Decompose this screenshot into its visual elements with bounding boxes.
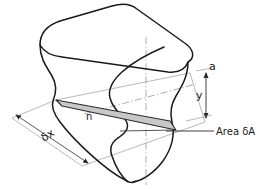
- label-y: y: [196, 89, 203, 102]
- background: [0, 0, 260, 189]
- label-n: n: [86, 111, 92, 122]
- diagram-canvas: a y n δx Area δA: [0, 0, 260, 189]
- label-a: a: [209, 60, 216, 73]
- beam-cross-section-figure: a y n δx Area δA: [0, 0, 260, 189]
- label-area-delta-a: Area δA: [216, 126, 255, 137]
